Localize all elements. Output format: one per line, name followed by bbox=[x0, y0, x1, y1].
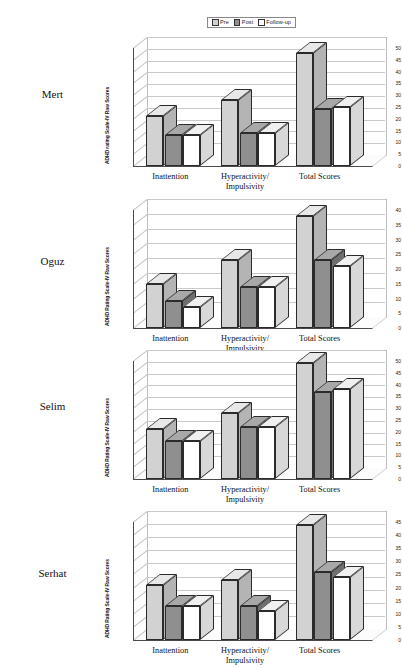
axis-depth-connector bbox=[133, 273, 147, 284]
y-axis-line bbox=[133, 361, 134, 479]
x-axis-line bbox=[133, 479, 357, 480]
y-axis-tick-label: 35 bbox=[395, 81, 401, 86]
x-axis-labels: InattentionHyperactivity/ImpulsivityTota… bbox=[127, 646, 402, 669]
axis-depth-connector bbox=[133, 243, 147, 254]
axis-depth-connector bbox=[133, 120, 147, 131]
legend-swatch-post bbox=[234, 19, 241, 26]
axis-depth-connector bbox=[133, 397, 147, 408]
y-axis-tick-label: 30 bbox=[395, 93, 401, 98]
bar-front-face bbox=[146, 116, 163, 166]
gridline bbox=[147, 49, 385, 50]
subject-name-label: Mert bbox=[0, 88, 105, 100]
bar bbox=[258, 287, 275, 328]
axis-depth-connector bbox=[133, 433, 147, 444]
legend-label-post: Post bbox=[242, 20, 253, 26]
axis-depth-connector bbox=[133, 302, 147, 313]
axis-depth-connector bbox=[133, 385, 147, 396]
chart-legend: Pre Post Follow-up bbox=[207, 17, 296, 28]
gridline bbox=[147, 537, 385, 538]
axis-depth-connector bbox=[133, 616, 147, 627]
x-axis-category-label: Total Scores bbox=[282, 172, 357, 182]
y-axis-tick-label: 45 bbox=[395, 370, 401, 375]
y-axis-tick-label: 15 bbox=[395, 128, 401, 133]
y-axis-tick-label: 20 bbox=[395, 267, 401, 272]
x-axis-category-line: Impulsivity bbox=[208, 182, 283, 192]
y-axis-tick-label: 30 bbox=[395, 559, 401, 564]
bar-front-face bbox=[314, 109, 331, 166]
bar-front-face bbox=[240, 606, 257, 640]
axis-depth-connector bbox=[133, 214, 147, 225]
bar bbox=[183, 441, 200, 479]
bar-side-face bbox=[350, 566, 364, 640]
axis-depth-connector bbox=[133, 84, 147, 95]
plot-area: 051015202530354045InattentionHyperactivi… bbox=[116, 506, 402, 669]
y-axis-title: ADHD Rating Scale-IV Raw Scores bbox=[105, 316, 110, 326]
chart-container: ADHD rating Scale-IV Raw Scores051015202… bbox=[105, 32, 402, 196]
bar-front-face bbox=[146, 585, 163, 640]
axis-depth-connector bbox=[133, 444, 147, 455]
bar bbox=[314, 572, 331, 640]
bar bbox=[296, 216, 313, 328]
bar bbox=[314, 392, 331, 479]
bar-front-face bbox=[183, 606, 200, 640]
bar-front-face bbox=[333, 266, 350, 328]
bar bbox=[183, 606, 200, 640]
y-axis-tick-label: 25 bbox=[395, 105, 401, 110]
gridline bbox=[147, 511, 385, 512]
bar-chart: ADHD Rating Scale-IV Raw Scores051015202… bbox=[105, 506, 402, 669]
x-axis-category-line: Total Scores bbox=[282, 485, 357, 495]
bar-front-face bbox=[240, 427, 257, 479]
y-axis-tick-label: 45 bbox=[395, 520, 401, 525]
bar-chart: ADHD Rating Scale-IV Raw Scores051015202… bbox=[105, 345, 402, 509]
y-axis-tick-label: 25 bbox=[395, 252, 401, 257]
x-axis-category-line: Hyperactivity/ bbox=[208, 334, 283, 344]
bar bbox=[165, 135, 182, 166]
x-axis-category-line: Impulsivity bbox=[208, 656, 283, 666]
axis-depth-connector bbox=[133, 131, 147, 142]
bar-front-face bbox=[333, 107, 350, 166]
bar bbox=[296, 363, 313, 479]
bar bbox=[146, 116, 163, 166]
gridline bbox=[147, 214, 385, 215]
gridline bbox=[147, 37, 385, 38]
bar-front-face bbox=[165, 606, 182, 640]
y-axis-tick-label: 40 bbox=[395, 382, 401, 387]
y-axis-tick-label: 40 bbox=[395, 533, 401, 538]
x-axis-category-label: Hyperactivity/Impulsivity bbox=[208, 172, 283, 192]
gridline bbox=[147, 524, 385, 525]
bar-front-face bbox=[146, 429, 163, 479]
y-axis-tick-label: 15 bbox=[395, 441, 401, 446]
bar bbox=[333, 577, 350, 640]
bar-front-face bbox=[258, 611, 275, 640]
axis-depth-connector bbox=[133, 456, 147, 467]
axis-depth-connector bbox=[133, 288, 147, 299]
axis-depth-connector bbox=[133, 199, 147, 210]
y-axis-tick-label: 20 bbox=[395, 585, 401, 590]
y-axis-tick-label: 25 bbox=[395, 418, 401, 423]
axis-depth-connector bbox=[133, 537, 147, 548]
chart-container: ADHD Rating Scale-IV Raw Scores051015202… bbox=[105, 345, 402, 509]
y-axis-tick-label: 10 bbox=[395, 453, 401, 458]
bar bbox=[183, 135, 200, 166]
bar bbox=[314, 109, 331, 166]
axis-depth-connector bbox=[133, 258, 147, 269]
y-axis-tick-label: 5 bbox=[398, 624, 401, 629]
gridline bbox=[147, 61, 385, 62]
axis-depth-connector bbox=[133, 229, 147, 240]
y-axis-title: ADHD Rating Scale-IV Raw Scores bbox=[105, 467, 110, 477]
bar-front-face bbox=[221, 100, 238, 166]
x-axis-category-line: Total Scores bbox=[282, 172, 357, 182]
bar bbox=[333, 107, 350, 166]
bar-side-face bbox=[350, 378, 364, 479]
bar-front-face bbox=[221, 413, 238, 479]
bar bbox=[240, 287, 257, 328]
bar bbox=[240, 133, 257, 166]
y-axis-tick-label: 5 bbox=[398, 152, 401, 157]
y-axis-tick-label: 10 bbox=[395, 296, 401, 301]
bar bbox=[240, 606, 257, 640]
x-axis-category-line: Inattention bbox=[133, 646, 208, 656]
subject-name-label: Oguz bbox=[0, 255, 105, 267]
x-axis-category-label: Total Scores bbox=[282, 646, 357, 656]
x-axis-category-label: Total Scores bbox=[282, 334, 357, 344]
